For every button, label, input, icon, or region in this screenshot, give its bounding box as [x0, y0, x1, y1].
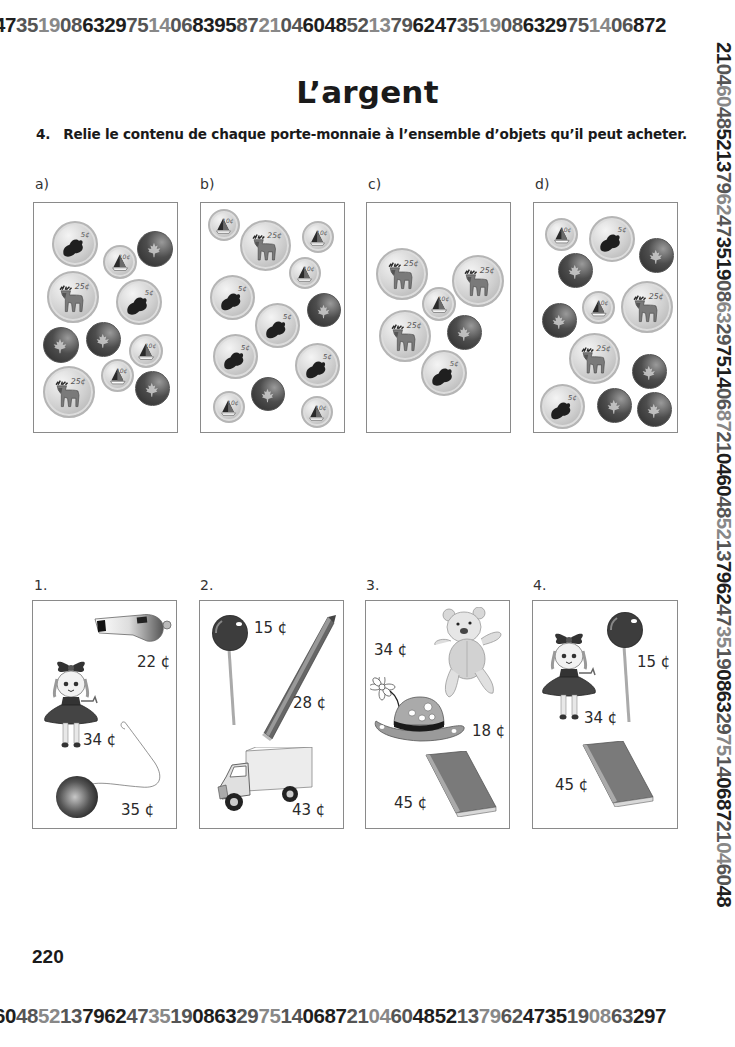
maple-leaf-icon — [51, 337, 69, 355]
item-set-label-4: 4. — [533, 577, 546, 593]
wallet-b[interactable]: 10¢ 25¢ 10¢ 10¢ 5¢ 5¢ 5¢ 5¢ 10¢ 10¢ — [200, 202, 345, 433]
coin-value-label: 10¢ — [227, 399, 238, 406]
coin-value-label: 25¢ — [404, 259, 419, 268]
coin-value-label: 10¢ — [560, 226, 571, 233]
coin-value-label: 25¢ — [75, 282, 90, 291]
item-set-3[interactable]: 34 ¢ 18 ¢ 45 ¢ — [365, 600, 510, 829]
coin-5-cent: 5¢ — [52, 221, 98, 267]
coin-value-label: 25¢ — [480, 266, 495, 275]
coin-10-cent: 10¢ — [101, 359, 134, 392]
coin-1-cent — [542, 303, 577, 338]
coin-5-cent: 5¢ — [116, 279, 162, 325]
coin-1-cent — [86, 322, 121, 357]
yo-yo-price: 35 ¢ — [121, 801, 154, 819]
coin-1-cent — [137, 231, 173, 267]
coin-10-cent: 10¢ — [582, 291, 615, 324]
coin-value-label: 10¢ — [303, 265, 314, 272]
coin-25-cent: 25¢ — [43, 366, 95, 418]
wallet-a[interactable]: 5¢ 10¢ 25¢ 5¢ 10¢ 25¢ 10¢ — [33, 202, 178, 433]
coin-1-cent — [307, 293, 341, 327]
coin-value-label: 10¢ — [145, 342, 156, 349]
maple-leaf-icon — [550, 313, 568, 331]
coin-value-label: 10¢ — [116, 367, 127, 374]
pencil-price: 28 ¢ — [293, 694, 326, 712]
coin-5-cent: 5¢ — [210, 275, 255, 320]
coin-10-cent: 10¢ — [208, 209, 240, 241]
maple-leaf-icon — [605, 398, 623, 416]
coin-5-cent: 5¢ — [540, 384, 585, 429]
coin-value-label: 25¢ — [649, 292, 664, 301]
coin-value-label: 10¢ — [316, 229, 327, 236]
maple-leaf-icon — [645, 402, 663, 420]
instruction-text: Relie le contenu de chaque porte-monnaie… — [63, 126, 687, 142]
item-set-label-3: 3. — [366, 577, 379, 593]
maple-leaf-icon — [647, 248, 665, 266]
lollipop-icon — [210, 613, 252, 728]
coin-25-cent: 25¢ — [47, 271, 99, 323]
coin-value-label: 5¢ — [241, 344, 250, 352]
whistle-price: 22 ¢ — [137, 653, 170, 671]
coin-value-label: 10¢ — [438, 295, 449, 302]
beaver-icon — [124, 294, 153, 317]
item-set-1[interactable]: 22 ¢ 34 ¢ 35 ¢ — [32, 600, 177, 829]
page-title: L’argent — [0, 74, 735, 110]
coin-10-cent: 10¢ — [422, 287, 456, 321]
coin-1-cent — [558, 253, 593, 288]
teddy-bear-price: 34 ¢ — [374, 641, 407, 659]
coin-25-cent: 25¢ — [621, 281, 673, 333]
border-digits-top: 4735190863297514068395872104604852137962… — [0, 13, 666, 37]
coin-value-label: 10¢ — [222, 217, 233, 224]
coin-value-label: 10¢ — [119, 253, 130, 260]
coin-25-cent: 25¢ — [240, 220, 291, 271]
coin-value-label: 5¢ — [283, 313, 292, 321]
coin-value-label: 10¢ — [597, 299, 608, 306]
coin-25-cent: 25¢ — [452, 255, 504, 307]
lollipop-price: 15 ¢ — [637, 653, 670, 671]
book-price: 45 ¢ — [555, 776, 588, 794]
wallet-label-c: c) — [368, 176, 381, 192]
wallet-label-d: d) — [535, 176, 549, 192]
coin-10-cent: 10¢ — [213, 391, 245, 423]
coin-5-cent: 5¢ — [213, 334, 258, 379]
coin-10-cent: 10¢ — [302, 221, 334, 253]
wallet-c[interactable]: 25¢ 25¢ 10¢ 25¢ 5¢ — [366, 202, 511, 433]
coin-1-cent — [632, 354, 667, 389]
maple-leaf-icon — [94, 332, 112, 350]
beaver-icon — [429, 365, 458, 388]
item-set-label-2: 2. — [200, 577, 213, 593]
coin-1-cent — [637, 392, 672, 427]
maple-leaf-icon — [315, 303, 332, 320]
wallet-label-b: b) — [200, 176, 214, 192]
maple-leaf-icon — [566, 263, 584, 281]
coin-value-label: 25¢ — [267, 231, 282, 240]
coin-25-cent: 25¢ — [569, 333, 620, 384]
maple-leaf-icon — [455, 325, 473, 343]
coin-10-cent: 10¢ — [545, 218, 578, 251]
coin-1-cent — [447, 315, 482, 350]
exercise-number: 4. — [36, 126, 50, 142]
item-set-2[interactable]: 15 ¢ 28 ¢ 43 ¢ — [199, 600, 344, 829]
coin-10-cent: 10¢ — [301, 396, 333, 428]
coin-value-label: 5¢ — [238, 285, 247, 293]
maple-leaf-icon — [640, 364, 658, 382]
maple-leaf-icon — [259, 387, 276, 404]
maple-leaf-icon — [145, 241, 163, 259]
border-digits-right: 2104604852137962473519086329751406872104… — [706, 42, 730, 907]
coin-10-cent: 10¢ — [289, 257, 321, 289]
border-digits-left: 1046048521379624735190863297514068721046… — [0, 42, 3, 997]
wallet-d[interactable]: 10¢ 5¢ 10¢ 25¢ 25¢ 5¢ — [533, 202, 678, 433]
item-set-4[interactable]: 34 ¢ 15 ¢ 45 ¢ — [532, 600, 678, 829]
book-price: 45 ¢ — [394, 794, 427, 812]
coin-5-cent: 5¢ — [589, 216, 635, 262]
page-number: 220 — [32, 946, 64, 968]
border-digits-bottom: 6048521379624735190863297514068721046048… — [0, 1004, 666, 1028]
exercise-instruction: 4.Relie le contenu de chaque porte-monna… — [36, 126, 687, 142]
hat-with-flower-icon — [370, 677, 470, 745]
wallet-label-a: a) — [35, 176, 49, 192]
coin-10-cent: 10¢ — [129, 334, 163, 368]
coin-5-cent: 5¢ — [295, 343, 340, 388]
coin-value-label: 5¢ — [450, 360, 459, 368]
coin-5-cent: 5¢ — [255, 303, 300, 348]
truck-price: 43 ¢ — [292, 801, 325, 819]
coin-value-label: 5¢ — [618, 226, 627, 234]
